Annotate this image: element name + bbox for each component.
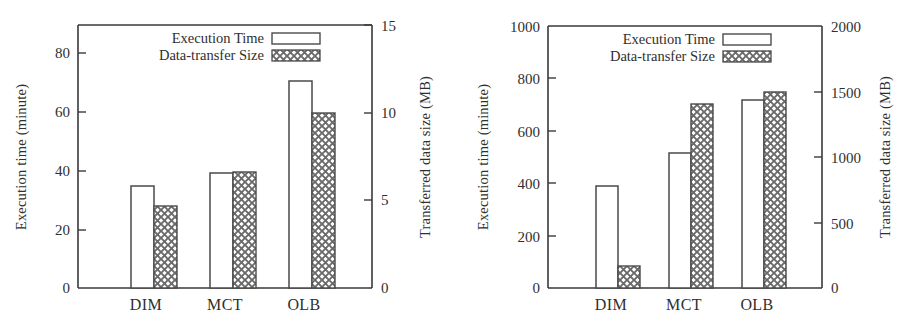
left-y2-axis-title: Transferred data size (MB) (417, 76, 434, 238)
left-chart-panel: 80 60 40 20 0 15 10 5 0 Execution time (… (0, 0, 452, 329)
left-y2tick-label-0: 0 (381, 280, 389, 296)
left-bar-exec-dim (131, 186, 154, 288)
left-y2tick-label-10: 10 (381, 105, 396, 121)
left-legend-label-execution-time: Execution Time (172, 30, 264, 46)
left-ytick-label-20: 20 (55, 222, 70, 238)
right-bar-exec-olb (742, 100, 764, 288)
right-legend-label-execution-time: Execution Time (623, 31, 715, 47)
right-legend-swatch-execution-time (723, 34, 771, 45)
right-secondary-axis-ticks (814, 92, 822, 223)
right-bar-exec-mct (669, 153, 691, 288)
right-category-label-dim: DIM (595, 296, 627, 313)
right-y2tick-label-500: 500 (831, 216, 854, 232)
right-axis-ticks (548, 78, 556, 236)
left-legend: Execution Time Data-transfer Size (159, 30, 320, 63)
right-ytick-label-800: 800 (518, 71, 541, 87)
left-ytick-label-0: 0 (63, 280, 71, 296)
right-y2tick-label-1500: 1500 (831, 85, 861, 101)
left-legend-swatch-data-transfer-size (272, 50, 320, 61)
left-category-label-olb: OLB (287, 296, 320, 313)
left-ytick-label-80: 80 (55, 45, 70, 61)
left-y-axis-title: Execution time (minute) (13, 84, 30, 230)
right-bar-data-dim (618, 266, 640, 288)
left-legend-label-data-transfer-size: Data-transfer Size (159, 47, 264, 63)
right-bar-data-mct (691, 104, 713, 288)
left-bar-exec-olb (289, 81, 312, 288)
right-ytick-label-200: 200 (518, 229, 541, 245)
right-ytick-label-0: 0 (533, 280, 541, 296)
left-y2tick-label-5: 5 (381, 192, 389, 208)
left-ytick-label-60: 60 (55, 104, 70, 120)
figure-container: 80 60 40 20 0 15 10 5 0 Execution time (… (0, 0, 905, 329)
right-y2tick-label-1000: 1000 (831, 150, 861, 166)
right-category-label-olb: OLB (740, 296, 773, 313)
left-axis-ticks (78, 53, 86, 230)
left-bar-exec-mct (210, 173, 233, 288)
right-y2tick-label-2000: 2000 (831, 19, 861, 35)
left-category-label-mct: MCT (207, 296, 243, 313)
right-ytick-label-400: 400 (518, 176, 541, 192)
right-legend: Execution Time Data-transfer Size (610, 31, 771, 64)
left-bar-data-dim (154, 206, 177, 288)
right-legend-swatch-data-transfer-size (723, 51, 771, 62)
right-bar-data-olb (764, 92, 786, 288)
right-ytick-label-600: 600 (518, 124, 541, 140)
left-category-label-dim: DIM (130, 296, 162, 313)
right-bar-exec-dim (596, 186, 618, 288)
left-chart-svg: 80 60 40 20 0 15 10 5 0 Execution time (… (0, 0, 452, 329)
left-y2tick-label-15: 15 (381, 18, 396, 34)
left-legend-swatch-execution-time (272, 33, 320, 44)
right-y2-axis-title: Transferred data size (MB) (877, 76, 894, 238)
left-secondary-axis-ticks (364, 25, 372, 200)
right-legend-label-data-transfer-size: Data-transfer Size (610, 48, 715, 64)
left-bar-data-mct (233, 172, 256, 288)
right-y2tick-label-0: 0 (831, 280, 839, 296)
right-chart-svg: 1000 800 600 400 200 0 2000 1500 1000 50… (452, 0, 905, 329)
right-category-label-mct: MCT (666, 296, 702, 313)
left-ytick-label-40: 40 (55, 163, 70, 179)
left-bar-data-olb (312, 113, 335, 288)
right-y-axis-title: Execution time (minute) (475, 84, 492, 230)
right-ytick-label-1000: 1000 (510, 19, 540, 35)
right-chart-panel: 1000 800 600 400 200 0 2000 1500 1000 50… (452, 0, 905, 329)
